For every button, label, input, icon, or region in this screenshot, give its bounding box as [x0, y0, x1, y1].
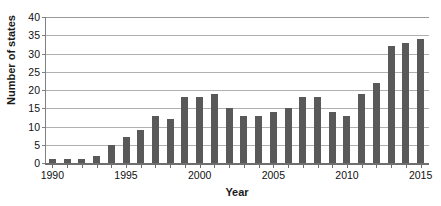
bar	[255, 116, 262, 163]
x-axis-tick	[200, 164, 201, 168]
bar	[226, 108, 233, 163]
x-axis-tick	[362, 164, 363, 168]
bar	[358, 94, 365, 163]
x-axis-tick	[376, 164, 377, 168]
x-axis-tick	[52, 164, 53, 168]
x-axis-tick-label: 2010	[335, 170, 358, 181]
x-axis-tick	[185, 164, 186, 168]
x-axis-tick	[214, 164, 215, 168]
y-axis-tick-label: 25	[18, 67, 40, 78]
x-axis-tick-label: 2000	[188, 170, 211, 181]
x-axis-tick	[82, 164, 83, 168]
bar	[93, 156, 100, 163]
x-axis-tick	[332, 164, 333, 168]
bar	[314, 97, 321, 163]
y-axis-tick-label: 20	[18, 85, 40, 96]
x-axis-tick	[141, 164, 142, 168]
x-axis-title: Year	[45, 186, 429, 198]
x-axis-tick	[391, 164, 392, 168]
x-axis-tick	[155, 164, 156, 168]
bar	[285, 108, 292, 163]
bar	[78, 159, 85, 163]
bar	[123, 137, 130, 163]
x-axis-tick	[111, 164, 112, 168]
bar-chart: Number of states 0510152025303540 199019…	[0, 0, 441, 206]
x-axis-tick	[126, 164, 127, 168]
x-axis-tick	[406, 164, 407, 168]
bar	[343, 116, 350, 163]
bar	[108, 145, 115, 163]
x-axis-tick-labels: 199019952000200520102015	[45, 170, 429, 184]
bar	[64, 159, 71, 163]
bar	[329, 112, 336, 163]
y-axis-tick-label: 30	[18, 48, 40, 59]
x-axis-tick-label: 2015	[409, 170, 432, 181]
x-axis-tick	[259, 164, 260, 168]
x-axis-tick	[303, 164, 304, 168]
bar	[240, 116, 247, 163]
x-axis-tick	[273, 164, 274, 168]
bars-layer	[45, 17, 428, 163]
bar	[270, 112, 277, 163]
bar	[388, 46, 395, 163]
x-axis-tick	[229, 164, 230, 168]
x-axis-tick-label: 1995	[114, 170, 137, 181]
bar	[417, 39, 424, 163]
x-axis-tick	[288, 164, 289, 168]
x-axis-ticks	[45, 164, 429, 169]
bar	[211, 94, 218, 163]
y-axis-tick-label: 35	[18, 30, 40, 41]
x-axis-tick	[347, 164, 348, 168]
x-axis-tick	[97, 164, 98, 168]
bar	[299, 97, 306, 163]
y-axis-tick-label: 5	[18, 140, 40, 151]
x-axis-tick	[244, 164, 245, 168]
bar	[152, 116, 159, 163]
bar	[137, 130, 144, 163]
y-axis-tick-label: 0	[18, 158, 40, 169]
x-axis-tick	[67, 164, 68, 168]
y-axis-tick-label: 15	[18, 103, 40, 114]
bar	[167, 119, 174, 163]
x-axis-tick-label: 1990	[41, 170, 64, 181]
y-axis-tick-label: 10	[18, 121, 40, 132]
bar	[373, 83, 380, 163]
x-axis-tick	[170, 164, 171, 168]
x-axis-tick	[421, 164, 422, 168]
y-axis-tick-labels: 0510152025303540	[18, 10, 40, 170]
x-axis-tick-label: 2005	[262, 170, 285, 181]
bar	[49, 159, 56, 163]
bar	[402, 43, 409, 163]
bar	[181, 97, 188, 163]
y-axis-tick-label: 40	[18, 12, 40, 23]
bar	[196, 97, 203, 163]
x-axis-tick	[318, 164, 319, 168]
